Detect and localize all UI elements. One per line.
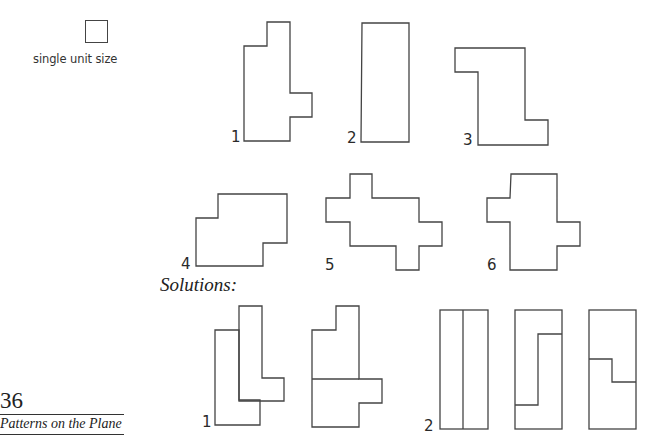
solution-2c-divider [589,359,636,382]
solution-1b-outline [312,306,382,427]
problem-label-6: 6 [487,256,497,274]
solutions-heading: Solutions: [160,274,237,296]
problem-shape-5 [326,174,442,270]
solution-1a-piece-b [239,306,284,401]
problem-label-1: 1 [231,128,241,146]
solution-2a-outline [440,310,488,429]
problem-shape-6 [487,174,580,270]
solution-label-2: 2 [424,417,434,435]
solution-label-1: 1 [202,413,212,431]
problem-shape-4 [196,194,287,266]
solution-2b-divider [515,334,562,405]
running-title: Patterns on the Plane [0,416,124,435]
problem-shape-2 [361,23,409,142]
page-number: 36 [0,389,124,415]
shapes-diagram [0,0,649,446]
problem-shape-1 [244,22,312,141]
problem-label-2: 2 [347,129,357,147]
solution-1a-piece-a [215,330,260,425]
problem-label-3: 3 [463,131,473,149]
problem-label-4: 4 [181,255,191,273]
problem-label-5: 5 [325,256,335,274]
